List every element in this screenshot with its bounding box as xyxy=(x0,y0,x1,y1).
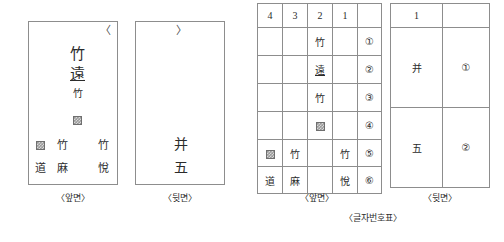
cell-r5c2 xyxy=(308,140,333,167)
table-row: 竹 ① xyxy=(258,28,382,56)
damaged-character-icon xyxy=(73,116,82,125)
cell-r6c4: 道 xyxy=(258,167,283,194)
cell-r1-index: ① xyxy=(358,28,382,56)
cell-r4c2 xyxy=(308,112,333,140)
cell-r4c3 xyxy=(283,112,308,140)
back-cell-r1-index: ① xyxy=(443,28,490,108)
cell-r4-index: ④ xyxy=(358,112,382,140)
cell-r4c1 xyxy=(333,112,358,140)
header-cell-blank xyxy=(358,4,382,28)
back-header-cell-blank xyxy=(443,4,490,28)
damaged-character-icon xyxy=(266,150,275,159)
cell-r2-index: ② xyxy=(358,56,382,84)
cell-r2c2-text: 遠 xyxy=(315,65,325,76)
cell-r1c1 xyxy=(333,28,358,56)
header-cell-4: 4 xyxy=(258,4,283,28)
cell-r6-index: ⑥ xyxy=(358,167,382,194)
cell-r4c4 xyxy=(258,112,283,140)
close-bracket-icon: 〉 xyxy=(176,25,187,36)
table-header-row: 4 3 2 1 xyxy=(258,4,382,28)
back-cell-r2-index: ② xyxy=(443,108,490,188)
cell-r5c1: 竹 xyxy=(333,140,358,167)
back-cell-r2c1: 五 xyxy=(391,108,443,188)
front-index-table-caption: 〈앞면〉 xyxy=(257,191,376,204)
cell-r1c3 xyxy=(283,28,308,56)
back-tablet-glyph-2: 五 xyxy=(174,160,188,174)
tablet-bottom-row2-col4: 悅 xyxy=(98,163,109,174)
tablet-bottom-row1-col2: 竹 xyxy=(57,140,68,151)
cell-r2c3 xyxy=(283,56,308,84)
cell-r5c3: 竹 xyxy=(283,140,308,167)
table-row: 竹 竹 ⑤ xyxy=(258,140,382,167)
cell-r2c1 xyxy=(333,56,358,84)
table-row: ④ xyxy=(258,112,382,140)
back-cell-r1c1: 并 xyxy=(391,28,443,108)
damaged-character-icon xyxy=(36,141,45,150)
front-index-table: 4 3 2 1 竹 ① 遠 ② 竹 ③ ④ 竹 竹 ⑤ xyxy=(257,3,382,194)
cell-r3c3 xyxy=(283,84,308,112)
cell-r5-index: ⑤ xyxy=(358,140,382,167)
tablet-glyph-1: 竹 xyxy=(70,47,85,62)
table-row: 遠 ② xyxy=(258,56,382,84)
tablet-glyph-3: 竹 xyxy=(73,89,83,99)
table-row: 道 麻 悅 ⑥ xyxy=(258,167,382,194)
table-header-row: 1 xyxy=(391,4,490,28)
back-header-cell-1: 1 xyxy=(391,4,443,28)
cell-r6c2 xyxy=(308,167,333,194)
cell-r3c4 xyxy=(258,84,283,112)
cell-r2c2: 遠 xyxy=(308,56,333,84)
tablet-bottom-row2-col2: 麻 xyxy=(57,163,68,174)
back-index-table-caption: 〈뒷면〉 xyxy=(390,191,489,204)
table-row: 并 ① xyxy=(391,28,490,108)
cell-r3c2: 竹 xyxy=(308,84,333,112)
table-row: 五 ② xyxy=(391,108,490,188)
cell-r3-index: ③ xyxy=(358,84,382,112)
open-bracket-icon: 〈 xyxy=(100,25,111,36)
cell-r1c4 xyxy=(258,28,283,56)
cell-r5c4 xyxy=(258,140,283,167)
front-tablet-figure: 〈 竹 遠 竹 竹 竹 道 麻 悅 xyxy=(28,21,118,185)
front-tablet-caption: 〈앞면〉 xyxy=(28,191,118,204)
tablet-bottom-row2-col1: 道 xyxy=(35,163,46,174)
back-tablet-figure: 〉 并 五 xyxy=(135,21,225,185)
figure-caption: 〈글자번호표〉 xyxy=(257,211,489,224)
cell-r6c1: 悅 xyxy=(333,167,358,194)
header-cell-2: 2 xyxy=(308,4,333,28)
back-index-table: 1 并 ① 五 ② xyxy=(390,3,490,188)
back-tablet-caption: 〈뒷면〉 xyxy=(135,191,225,204)
tablet-glyph-2: 遠 xyxy=(70,67,85,82)
cell-r1c2: 竹 xyxy=(308,28,333,56)
cell-r6c3: 麻 xyxy=(283,167,308,194)
table-row: 竹 ③ xyxy=(258,84,382,112)
damaged-character-icon xyxy=(316,122,325,131)
back-tablet-glyph-1: 并 xyxy=(174,137,188,151)
header-cell-3: 3 xyxy=(283,4,308,28)
header-cell-1: 1 xyxy=(333,4,358,28)
tablet-bottom-row1-col4: 竹 xyxy=(98,140,109,151)
cell-r2c4 xyxy=(258,56,283,84)
cell-r3c1 xyxy=(333,84,358,112)
